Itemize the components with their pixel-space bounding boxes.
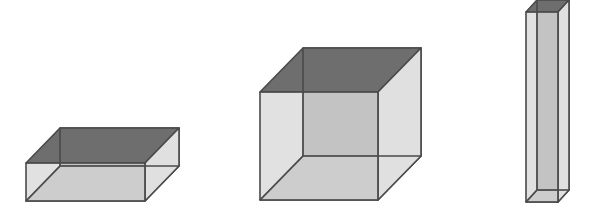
- tall-box: [526, 0, 569, 202]
- side-face: [558, 0, 569, 202]
- flat-box: [26, 128, 179, 201]
- boxes-diagram: [0, 0, 595, 218]
- front-face: [526, 12, 558, 202]
- front-face: [260, 92, 378, 200]
- cube-box: [260, 48, 421, 200]
